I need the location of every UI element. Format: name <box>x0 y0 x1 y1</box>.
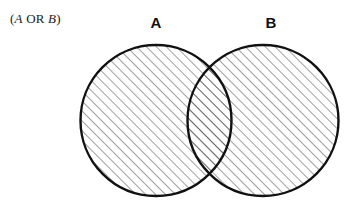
venn-diagram-figure: (A OR B) A B <box>0 0 354 213</box>
set-label-a: A <box>144 14 168 31</box>
caption-operator: OR <box>23 11 48 26</box>
expression-caption: (A OR B) <box>10 11 61 27</box>
caption-operand-a: A <box>15 11 23 26</box>
set-label-b: B <box>259 14 283 31</box>
caption-close-paren: ) <box>56 11 61 26</box>
caption-operand-b: B <box>48 11 56 26</box>
venn-diagram-canvas <box>0 0 354 213</box>
